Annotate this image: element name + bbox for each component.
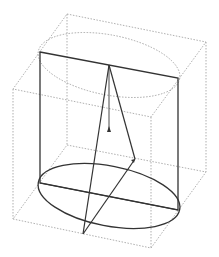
geometry-diagram: [0, 0, 219, 257]
